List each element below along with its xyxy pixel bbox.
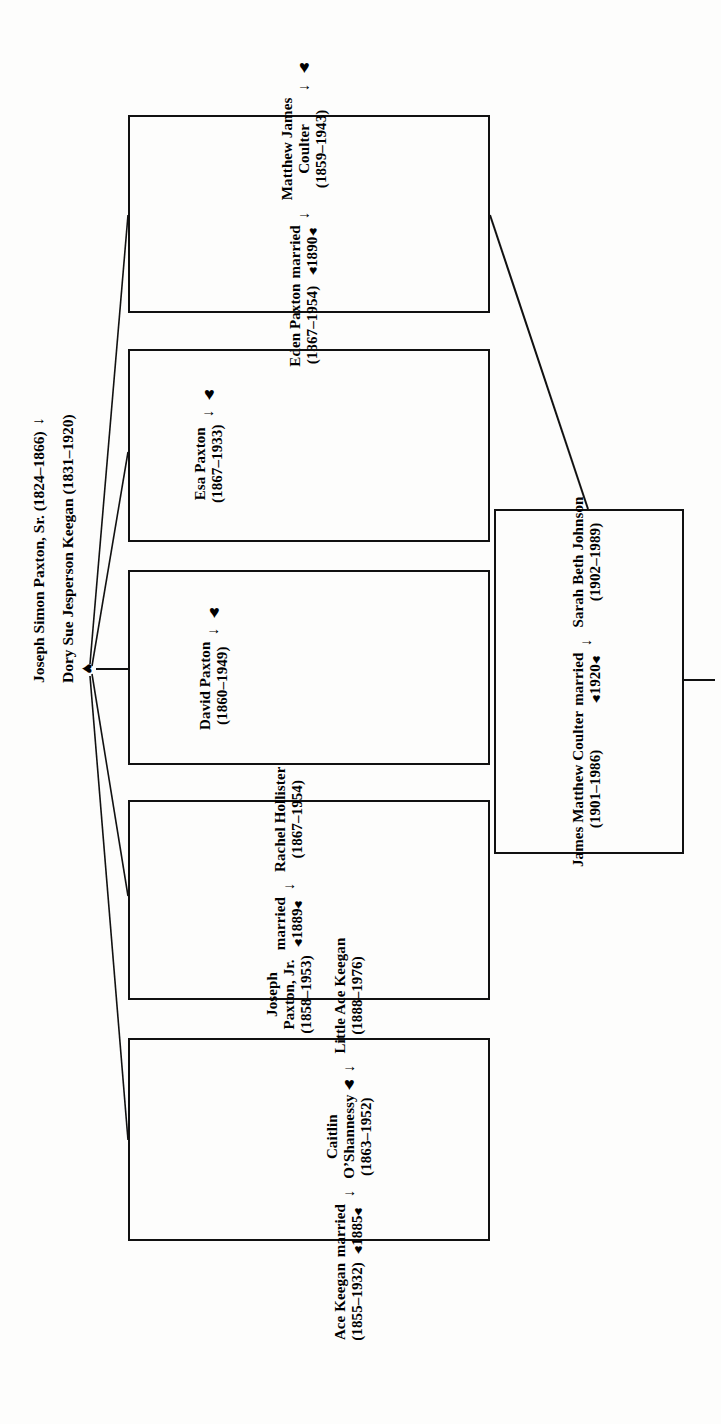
eden-to-spouse-arrow-icon: → bbox=[297, 204, 312, 221]
person-box-james-matthew-coulter[interactable]: James Matthew Coulter (1901–1986) marrie… bbox=[494, 509, 684, 854]
joseph-jr-to-spouse-arrow-icon: → bbox=[282, 876, 297, 893]
rachel-hollister-dates: (1867–1954) bbox=[290, 780, 307, 859]
joseph-jr-person: Joseph Paxton, Jr. (1858–1953) bbox=[264, 955, 314, 1034]
eden-marriage-label: married bbox=[288, 225, 305, 278]
eden-marriage-year: 1890 bbox=[304, 236, 320, 266]
esa-paxton-person: Esa Paxton (1867–1933) bbox=[192, 424, 226, 503]
ace-keegan-name: Ace Keegan bbox=[333, 1263, 350, 1340]
esa-issue-arrow-icon: → bbox=[202, 403, 217, 420]
ace-keegan-marriage: married ♥1885♥ bbox=[333, 1204, 367, 1257]
joseph-jr-name-1: Joseph bbox=[264, 972, 281, 1017]
edge-eden-to-coulter bbox=[490, 215, 588, 509]
james-coulter-name: James Matthew Coulter bbox=[570, 711, 587, 867]
rachel-hollister-name: Rachel Hollister bbox=[273, 766, 290, 871]
eden-marriage-heart-right: ♥ bbox=[309, 225, 317, 239]
matthew-coulter-name-1: Matthew James bbox=[279, 97, 296, 200]
joseph-jr-marriage-label: married bbox=[273, 897, 290, 950]
rachel-hollister-spouse: Rachel Hollister (1867–1954) bbox=[273, 766, 307, 871]
ace-to-spouse-arrow-icon: → bbox=[342, 1183, 357, 1200]
sarah-johnson-name: Sarah Beth Johnson bbox=[570, 496, 587, 627]
caitlin-oshannessy-spouse: Caitlin O’Shannessy (1863–1952) bbox=[324, 1095, 374, 1179]
david-paxton-person: David Paxton (1860–1949) bbox=[197, 641, 231, 729]
root-arrow-icon: → bbox=[31, 411, 47, 429]
root-father-label: Joseph Simon Paxton, Sr. (1824–1866) → bbox=[30, 412, 48, 683]
little-ace-keegan-child: Little Ace Keegan (1888–1976) bbox=[333, 938, 367, 1054]
joseph-jr-name-2: Paxton, Jr. bbox=[281, 959, 298, 1029]
little-ace-dates: (1888–1976) bbox=[350, 957, 367, 1036]
joseph-jr-marriage: married ♥1889♥ bbox=[273, 897, 307, 950]
ace-keegan-dates: (1855–1932) bbox=[350, 1262, 367, 1341]
person-box-eden-paxton[interactable]: Eden Paxton (1867–1954) married ♥1890♥ →… bbox=[128, 115, 490, 313]
sarah-beth-johnson-spouse: Sarah Beth Johnson (1902–1989) bbox=[570, 496, 604, 627]
sarah-johnson-dates: (1902–1989) bbox=[587, 522, 604, 601]
james-marriage-label: married bbox=[570, 652, 587, 705]
ace-marriage-heart-right: ♥ bbox=[354, 1204, 362, 1218]
matthew-coulter-spouse: Matthew James Coulter (1859–1943) bbox=[279, 97, 329, 200]
ace-marriage-label: married bbox=[333, 1204, 350, 1257]
joseph-jr-marriage-heart-left: ♥ bbox=[294, 936, 302, 950]
person-box-esa-paxton[interactable]: Esa Paxton (1867–1933) → ♥ bbox=[128, 349, 490, 542]
james-marriage-heart-right: ♥ bbox=[592, 653, 600, 667]
person-box-david-paxton[interactable]: David Paxton (1860–1949) → ♥ bbox=[128, 570, 490, 765]
matthew-coulter-name-2: Coulter bbox=[296, 124, 313, 174]
james-marriage-year: 1920 bbox=[587, 664, 603, 694]
caitlin-dates: (1863–1952) bbox=[358, 1098, 375, 1177]
ace-keegan-person: Ace Keegan (1855–1932) bbox=[333, 1262, 367, 1341]
ace-issue-arrow-icon: → bbox=[342, 1058, 357, 1075]
edge-to-esa bbox=[92, 452, 128, 666]
david-paxton-name: David Paxton bbox=[197, 641, 214, 729]
james-to-spouse-arrow-icon: → bbox=[579, 631, 594, 648]
root-mother-label: Dory Sue Jesperson Keegan (1831–1920) bbox=[59, 414, 77, 683]
ace-marriage-heart-left: ♥ bbox=[354, 1243, 362, 1257]
david-issue-arrow-icon: → bbox=[207, 620, 222, 637]
caitlin-name-2: O’Shannessy bbox=[341, 1095, 358, 1179]
eden-marriage-heart-left: ♥ bbox=[309, 264, 317, 278]
eden-issue-arrow-icon: → bbox=[297, 76, 312, 93]
james-coulter-person: James Matthew Coulter (1901–1986) bbox=[570, 711, 604, 867]
edge-to-joseph-jr bbox=[92, 674, 128, 896]
edge-to-eden bbox=[90, 215, 128, 664]
james-coulter-dates: (1901–1986) bbox=[587, 749, 604, 828]
root-mother-text: Dory Sue Jesperson Keegan (1831–1920) bbox=[59, 414, 76, 683]
union-heart-icon: ♥ bbox=[79, 663, 96, 673]
james-coulter-marriage: married ♥1920♥ bbox=[570, 652, 604, 705]
eden-issue-heart-icon: ♥ bbox=[299, 58, 310, 76]
david-paxton-dates: (1860–1949) bbox=[214, 646, 231, 725]
person-box-joseph-paxton-jr[interactable]: Joseph Paxton, Jr. (1858–1953) married ♥… bbox=[128, 800, 490, 1000]
chart-canvas: Joseph Simon Paxton, Sr. (1824–1866) → D… bbox=[0, 0, 721, 1424]
joseph-jr-dates: (1858–1953) bbox=[298, 955, 315, 1034]
eden-paxton-marriage: married ♥1890♥ bbox=[288, 225, 322, 278]
joseph-jr-marriage-heart-right: ♥ bbox=[294, 897, 302, 911]
ace-issue-heart-icon: ♥ bbox=[344, 1075, 355, 1093]
root-father-text: Joseph Simon Paxton, Sr. (1824–1866) bbox=[30, 431, 47, 683]
matthew-coulter-dates: (1859–1943) bbox=[313, 109, 330, 188]
caitlin-name-1: Caitlin bbox=[324, 1114, 341, 1159]
david-issue-heart-icon: ♥ bbox=[209, 602, 220, 620]
edge-to-ace bbox=[90, 676, 128, 1140]
person-box-ace-keegan[interactable]: Ace Keegan (1855–1932) married ♥1885♥ → … bbox=[128, 1038, 490, 1241]
james-marriage-heart-left: ♥ bbox=[592, 691, 600, 705]
little-ace-name: Little Ace Keegan bbox=[333, 938, 350, 1054]
esa-paxton-dates: (1867–1933) bbox=[209, 424, 226, 503]
esa-paxton-name: Esa Paxton bbox=[192, 427, 209, 500]
esa-issue-heart-icon: ♥ bbox=[204, 385, 215, 403]
